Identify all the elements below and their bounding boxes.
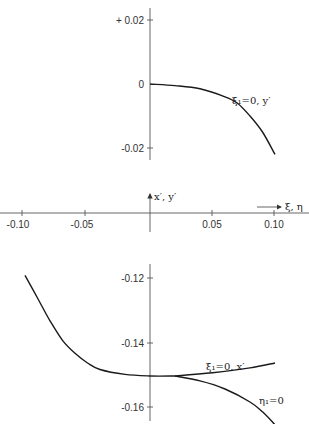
upper-tick-label: + 0.02 — [116, 15, 145, 26]
middle-axis-label: x′, y′ — [154, 191, 177, 202]
x-tick-label: 0.05 — [202, 219, 222, 230]
x-tick-label: -0.05 — [71, 219, 94, 230]
upper-tick-label: 0 — [138, 79, 144, 90]
lower-upper-branch-label: ξ₁=0, x′ — [206, 361, 245, 372]
upper-panel: + 0.02 0 -0.02 ξ₁=0, y′ — [116, 8, 275, 160]
x-tick-label: -0.10 — [7, 219, 30, 230]
upper-curve-label: ξ₁=0, y′ — [232, 95, 271, 106]
upper-tick-label: -0.02 — [121, 143, 144, 154]
x-axis-label: ξ, η — [285, 201, 303, 212]
lower-lower-branch-label: η₁=0 — [259, 395, 284, 406]
lower-curve-common-branch — [25, 275, 175, 376]
x-tick-label: 0.10 — [264, 219, 284, 230]
lower-tick-label: -0.14 — [121, 338, 144, 349]
lower-tick-label: -0.16 — [121, 402, 144, 413]
middle-axis-panel: -0.10 -0.05 0.05 0.10 x′, y′ ξ, η — [0, 191, 309, 232]
lower-tick-label: -0.12 — [121, 273, 144, 284]
chart-canvas: + 0.02 0 -0.02 ξ₁=0, y′ -0.10 -0.05 0.05… — [0, 0, 309, 424]
lower-panel: -0.12 -0.14 -0.16 ξ₁=0, x′ η₁=0 — [25, 264, 284, 424]
